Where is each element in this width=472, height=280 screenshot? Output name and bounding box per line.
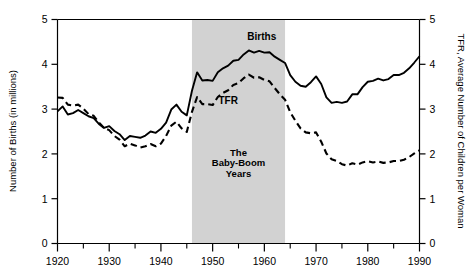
x-ticklabel-1940: 1940 (149, 255, 173, 267)
y-ticklabel-left-1: 1 (42, 193, 48, 205)
y-ticklabel-right-4: 4 (430, 58, 436, 70)
y-ticklabel-right-5: 5 (430, 13, 436, 25)
y-axis-right-title: TFR, Average Number of Children per Woma… (456, 33, 467, 228)
chart-figure: 0123450123451920193019401950196019701980… (0, 0, 472, 280)
y-ticklabel-left-4: 4 (42, 58, 48, 70)
x-ticklabel-1930: 1930 (98, 255, 122, 267)
y-axis-left-title: Number of Births (in millions) (7, 70, 18, 192)
y-ticklabel-right-1: 1 (430, 193, 436, 205)
x-ticklabel-1960: 1960 (253, 255, 277, 267)
x-ticklabel-1920: 1920 (46, 255, 70, 267)
births-label: Births (247, 31, 276, 42)
x-ticklabel-1990: 1990 (408, 255, 432, 267)
y-ticklabel-right-0: 0 (430, 237, 436, 249)
y-ticklabel-right-3: 3 (430, 103, 436, 115)
x-ticklabel-1970: 1970 (304, 255, 328, 267)
tfr-label: TFR (218, 95, 238, 106)
y-ticklabel-left-0: 0 (42, 237, 48, 249)
y-ticklabel-left-3: 3 (42, 103, 48, 115)
births-tfr-line-chart: 0123450123451920193019401950196019701980… (0, 0, 472, 280)
band-label-line3: Years (226, 168, 251, 179)
x-ticklabel-1950: 1950 (201, 255, 225, 267)
x-ticklabel-1980: 1980 (356, 255, 380, 267)
y-ticklabel-right-2: 2 (430, 148, 436, 160)
y-ticklabel-left-2: 2 (42, 148, 48, 160)
y-ticklabel-left-5: 5 (42, 13, 48, 25)
